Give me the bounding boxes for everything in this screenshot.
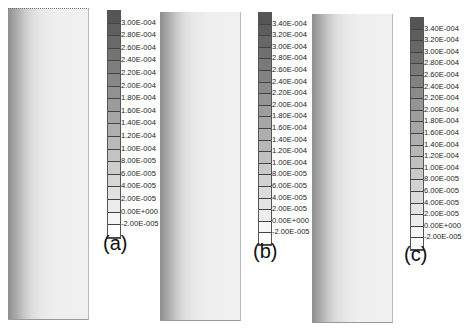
- colorbar-tick-label: -2.00E-005: [424, 233, 462, 241]
- colorbar-tick-label: 1.00E-004: [424, 164, 459, 172]
- colorbar-swatch: [411, 227, 423, 239]
- colorbar-tick-label: 6.00E-005: [272, 182, 307, 190]
- colorbar-swatch: [259, 13, 271, 25]
- colorbar-tick-label: -2.00E-005: [121, 220, 159, 228]
- colorbar-swatch: [411, 122, 423, 134]
- colorbar-tick-label: 2.60E-004: [272, 66, 307, 74]
- colorbar-tick-label: 2.40E-004: [272, 78, 307, 86]
- colorbar-tick-label: -2.00E-005: [272, 228, 310, 236]
- colorbar-tick-label: 2.60E-004: [121, 44, 156, 52]
- panel-label-c: (c): [404, 243, 427, 266]
- colorbar-tick-label: 6.00E-005: [424, 187, 459, 195]
- colorbar-tick-label: 4.00E-005: [272, 194, 307, 202]
- colorbar-tick-label: 3.20E-004: [424, 36, 459, 44]
- colorbar-tick-label: 2.80E-004: [272, 54, 307, 62]
- colorbar-swatches: [107, 10, 121, 239]
- colorbar-swatch: [108, 187, 120, 200]
- colorbar-swatch: [411, 18, 423, 30]
- colorbar-tick-label: 2.20E-004: [272, 89, 307, 97]
- colorbar-swatch: [411, 192, 423, 204]
- colorbar-swatch: [259, 117, 271, 129]
- colorbar-tick-label: 8.00E-005: [272, 170, 307, 178]
- colorbar-swatches: [410, 17, 424, 251]
- colorbar-swatch: [411, 215, 423, 227]
- colorbar-tick-label: 2.60E-004: [424, 71, 459, 79]
- colorbar-tick-label: 1.00E-004: [272, 159, 307, 167]
- panel-label-b: (b): [253, 240, 277, 263]
- colorbar-tick-label: 2.00E-004: [121, 82, 156, 90]
- colorbar-swatch: [108, 175, 120, 188]
- colorbar-swatch: [108, 61, 120, 74]
- colorbar-swatch: [259, 164, 271, 176]
- colorbar-swatch: [411, 111, 423, 123]
- colorbar-swatch: [108, 162, 120, 175]
- colorbar-tick-label: 3.40E-004: [272, 20, 307, 28]
- colorbar-swatch: [259, 25, 271, 37]
- colorbar-tick-label: 3.40E-004: [424, 25, 459, 33]
- colorbar-tick-label: 1.80E-004: [424, 117, 459, 125]
- colorbar-swatch: [411, 180, 423, 192]
- colorbar-swatch: [108, 124, 120, 137]
- colorbar-tick-label: 1.20E-004: [424, 152, 459, 160]
- colorbar-swatch: [411, 76, 423, 88]
- colorbar-swatch: [259, 48, 271, 60]
- colorbar-swatch: [259, 187, 271, 199]
- colorbar-tick-label: 2.80E-004: [424, 59, 459, 67]
- colorbar-swatch: [108, 74, 120, 87]
- colorbar-swatch: [411, 41, 423, 53]
- colorbar-swatch: [259, 141, 271, 153]
- colorbar-swatch: [411, 88, 423, 100]
- colorbar-swatch: [411, 169, 423, 181]
- colorbar-swatch: [259, 129, 271, 141]
- colorbar-tick-label: 1.20E-004: [272, 147, 307, 155]
- colorbar-swatch: [259, 71, 271, 83]
- colorbar-tick-label: 3.20E-004: [272, 31, 307, 39]
- colorbar-tick-label: 1.60E-004: [121, 107, 156, 115]
- colorbar-tick-label: 3.00E-004: [121, 19, 156, 27]
- colorbar-swatch: [108, 24, 120, 37]
- colorbar-tick-label: 0.00E+000: [121, 208, 158, 216]
- colorbar-tick-label: 2.00E-005: [272, 205, 307, 213]
- colorbar-swatch: [108, 112, 120, 125]
- colorbar-tick-label: 1.60E-004: [424, 129, 459, 137]
- colorbar-tick-label: 3.00E-004: [272, 43, 307, 51]
- colorbar-swatch: [411, 30, 423, 42]
- colorbar-tick-label: 2.00E-004: [424, 106, 459, 114]
- colorbar-tick-label: 2.40E-004: [424, 83, 459, 91]
- colorbar-tick-label: 2.80E-004: [121, 31, 156, 39]
- colorbar-tick-label: 1.60E-004: [272, 124, 307, 132]
- colorbar-tick-label: 1.20E-004: [121, 132, 156, 140]
- contour-strip-c: [312, 14, 393, 323]
- colorbar-swatch: [108, 213, 120, 226]
- colorbar-swatch: [411, 53, 423, 65]
- panel-label-a: (a): [103, 232, 127, 255]
- colorbar-tick-label: 3.00E-004: [424, 48, 459, 56]
- colorbar-swatch: [108, 11, 120, 24]
- colorbar-tick-label: 6.00E-005: [121, 170, 156, 178]
- colorbar-swatch: [411, 134, 423, 146]
- colorbar-swatch: [411, 146, 423, 158]
- colorbar-tick-label: 0.00E+000: [272, 217, 309, 225]
- colorbar-tick-label: 1.40E-004: [424, 141, 459, 149]
- colorbar-swatch: [259, 199, 271, 211]
- colorbar-swatch: [259, 222, 271, 234]
- colorbar-tick-label: 2.00E-005: [121, 195, 156, 203]
- colorbar-swatch: [108, 137, 120, 150]
- colorbar-swatch: [259, 94, 271, 106]
- colorbar-swatch: [411, 157, 423, 169]
- colorbar-swatch: [259, 83, 271, 95]
- colorbar-tick-label: 1.00E-004: [121, 145, 156, 153]
- colorbar-tick-label: 4.00E-005: [121, 182, 156, 190]
- colorbar-tick-label: 2.20E-004: [424, 94, 459, 102]
- colorbar-swatch: [259, 210, 271, 222]
- colorbar-swatch: [259, 106, 271, 118]
- colorbar-tick-label: 2.00E-004: [272, 101, 307, 109]
- colorbar-tick-label: 4.00E-005: [424, 199, 459, 207]
- colorbar-swatch: [108, 87, 120, 100]
- colorbar-tick-label: 8.00E-005: [424, 175, 459, 183]
- colorbar-tick-label: 2.20E-004: [121, 69, 156, 77]
- colorbar-swatch: [259, 36, 271, 48]
- colorbar-swatch: [411, 99, 423, 111]
- colorbar-tick-label: 2.40E-004: [121, 56, 156, 64]
- contour-strip-b: [160, 12, 241, 321]
